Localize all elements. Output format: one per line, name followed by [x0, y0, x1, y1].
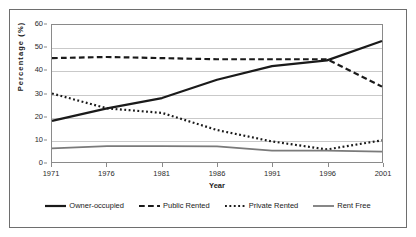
legend-swatch-icon	[313, 202, 334, 210]
y-tick-mark	[44, 24, 47, 25]
x-tick-mark	[328, 163, 329, 167]
x-tick-mark	[272, 163, 273, 167]
legend-item[interactable]: Owner-occupied	[45, 202, 124, 210]
y-tick-label: 20	[35, 113, 43, 121]
legend-item[interactable]: Private Rented	[225, 202, 299, 210]
y-tick-mark	[44, 93, 47, 94]
x-tick-mark	[51, 163, 52, 167]
plot-area	[51, 24, 383, 163]
series-line	[52, 41, 382, 121]
chart-legend: Owner-occupiedPublic RentedPrivate Rente…	[20, 202, 396, 210]
x-tick-label: 2001	[375, 170, 392, 178]
x-tick-mark	[217, 163, 218, 167]
series-line	[52, 94, 382, 150]
y-tick-label: 0	[39, 159, 43, 167]
y-tick-mark	[44, 47, 47, 48]
x-tick-label: 1976	[98, 170, 115, 178]
y-tick-mark	[44, 116, 47, 117]
y-tick-label: 10	[35, 136, 43, 144]
legend-swatch-icon	[139, 202, 160, 210]
y-tick-label: 30	[35, 90, 43, 98]
y-tick-mark	[44, 70, 47, 71]
legend-label: Public Rented	[163, 202, 210, 210]
y-tick-label: 40	[35, 67, 43, 75]
legend-swatch-icon	[225, 202, 246, 210]
x-tick-label: 1991	[264, 170, 281, 178]
y-tick-mark	[44, 163, 47, 164]
legend-label: Rent Free	[337, 202, 370, 210]
legend-swatch-icon	[45, 202, 66, 210]
x-axis: 1971197619811986199119962001	[51, 163, 383, 183]
series-line	[52, 57, 382, 87]
x-tick-label: 1971	[43, 170, 60, 178]
x-tick-mark	[106, 163, 107, 167]
x-tick-label: 1981	[153, 170, 170, 178]
y-tick-label: 50	[35, 43, 43, 51]
chart-figure: Percentage (%) 0102030405060 19711976198…	[0, 0, 416, 237]
series-layer	[52, 25, 382, 162]
x-tick-mark	[162, 163, 163, 167]
series-line	[52, 146, 382, 152]
x-axis-title: Year	[51, 181, 383, 190]
y-tick-label: 60	[35, 20, 43, 28]
x-tick-label: 1986	[209, 170, 226, 178]
x-tick-mark	[383, 163, 384, 167]
x-tick-label: 1996	[319, 170, 336, 178]
legend-item[interactable]: Rent Free	[313, 202, 370, 210]
y-tick-mark	[44, 139, 47, 140]
legend-label: Private Rented	[249, 202, 299, 210]
y-axis: 0102030405060	[0, 24, 47, 163]
legend-label: Owner-occupied	[69, 202, 124, 210]
legend-item[interactable]: Public Rented	[139, 202, 210, 210]
